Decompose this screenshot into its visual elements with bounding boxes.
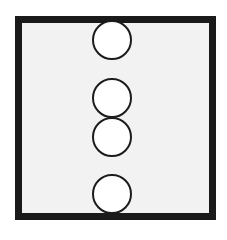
circle-1	[92, 20, 132, 60]
circle-2	[92, 78, 132, 118]
circle-3	[92, 117, 132, 157]
circle-4	[92, 174, 132, 214]
